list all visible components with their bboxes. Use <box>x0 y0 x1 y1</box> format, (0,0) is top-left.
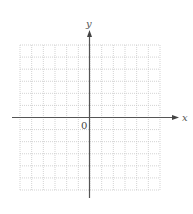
x-axis <box>12 115 179 120</box>
x-axis-arrow-icon <box>172 115 179 120</box>
x-axis-label: x <box>182 112 188 123</box>
y-axis-label: y <box>85 18 92 29</box>
coordinate-grid-svg: x y 0 <box>0 0 193 214</box>
coordinate-plane: x y 0 <box>0 0 193 214</box>
y-axis <box>87 30 92 198</box>
y-axis-arrow-icon <box>87 30 92 37</box>
origin-label: 0 <box>81 120 87 131</box>
